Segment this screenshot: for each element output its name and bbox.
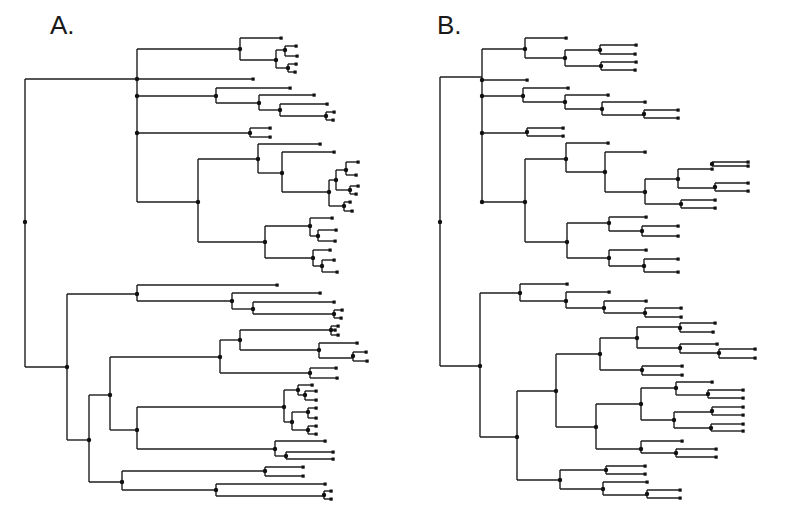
leaf-node [526,79,529,82]
leaf-node [607,94,610,97]
internal-node [135,94,139,98]
leaf-node [311,384,314,387]
leaf-node [742,423,745,426]
leaf-node [330,498,333,501]
internal-node [709,426,713,430]
leaf-node [331,217,334,220]
leaf-node [319,143,322,146]
internal-node [327,190,331,194]
leaf-node [294,71,297,74]
dendrogram-canvas [0,0,795,515]
internal-node [515,435,519,439]
leaf-node [714,322,717,325]
internal-node [525,130,529,134]
leaf-node [324,440,327,443]
internal-node [65,365,69,369]
leaf-node [330,490,333,493]
internal-node [554,389,558,393]
leaf-node [742,397,745,400]
leaf-node [280,37,283,40]
internal-node [635,336,639,340]
internal-node [594,425,598,429]
leaf-node [562,127,565,130]
internal-node [674,451,678,455]
leaf-node [715,448,718,451]
internal-node [282,405,286,409]
leaf-node [329,249,332,252]
leaf-node [747,182,750,185]
leaf-node [315,407,318,410]
leaf-node [289,87,292,90]
internal-node [256,157,260,161]
internal-node [565,240,569,244]
leaf-node [608,291,611,294]
leaf-node [634,53,637,56]
internal-node [599,64,603,68]
internal-node [238,338,242,342]
internal-node [348,188,352,192]
internal-node [523,47,527,51]
internal-node [135,131,139,135]
leaf-node [333,111,336,114]
leaf-node [747,190,750,193]
leaf-node [295,63,298,66]
internal-node [480,200,484,204]
internal-node [523,200,527,204]
internal-node [218,355,222,359]
internal-node [248,131,252,135]
leaf-node [644,465,647,468]
internal-node [478,364,482,368]
leaf-node [326,103,329,106]
internal-node [316,234,320,238]
leaf-node [645,216,648,219]
internal-node [308,371,312,375]
leaf-node [681,365,684,368]
leaf-node [712,331,715,334]
internal-node [290,420,294,424]
leaf-node [334,329,337,332]
leaf-node [562,135,565,138]
internal-node [643,190,647,194]
leaf-node [754,357,757,360]
leaf-node [677,235,680,238]
leaf-node [335,367,338,370]
internal-node [521,94,525,98]
leaf-node [334,240,337,243]
leaf-node [315,425,318,428]
leaf-node [644,151,647,154]
internal-node [257,101,261,105]
internal-node [87,438,91,442]
internal-node [120,480,124,484]
internal-node [351,354,355,358]
leaf-node [677,117,680,120]
leaf-node [677,271,680,274]
internal-node [717,351,721,355]
internal-node [642,112,646,116]
internal-node [564,299,568,303]
leaf-node [315,433,318,436]
leaf-node [302,466,305,469]
leaf-node [677,258,680,261]
internal-node [603,170,607,174]
internal-node [306,428,310,432]
leaf-node [714,199,717,202]
internal-node [563,56,567,60]
leaf-node [677,109,680,112]
internal-node [214,488,218,492]
leaf-node [742,389,745,392]
internal-node [263,240,267,244]
internal-node [308,224,312,228]
internal-node [317,348,321,352]
internal-node [607,221,611,225]
leaf-node [567,87,570,90]
leaf-node [635,44,638,47]
leaf-node [742,406,745,409]
leaf-node [681,374,684,377]
leaf-node [607,142,610,145]
internal-node [558,478,562,482]
internal-node [645,492,649,496]
leaf-node [332,119,335,122]
leaf-node [742,414,745,417]
leaf-node [315,390,318,393]
leaf-node [341,309,344,312]
